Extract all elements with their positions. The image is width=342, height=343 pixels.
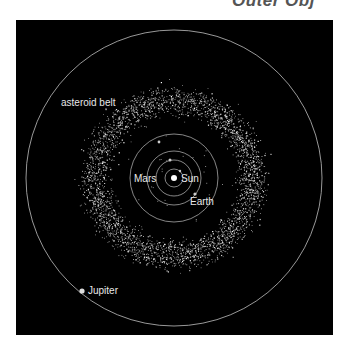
mars-icon <box>158 141 161 144</box>
jupiter-label: Jupiter <box>88 285 119 296</box>
mars-label: Mars <box>134 173 156 184</box>
jupiter-icon <box>79 288 84 293</box>
earth-label: Earth <box>190 196 214 207</box>
venus-icon <box>169 159 172 162</box>
diagram-canvas: asteroid belt Mars Sun Earth Jupiter <box>0 0 342 343</box>
asteroid-belt-label: asteroid belt <box>61 97 116 108</box>
mercury-icon <box>179 170 181 172</box>
sun-label: Sun <box>181 173 199 184</box>
sun-icon <box>171 175 177 181</box>
